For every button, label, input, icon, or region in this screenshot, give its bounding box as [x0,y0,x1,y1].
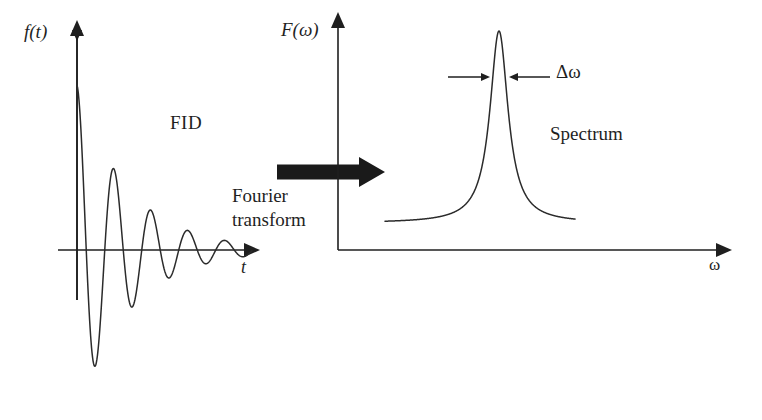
fid-panel [58,20,260,366]
spectrum-y-axis-label: F(ω) [281,20,319,39]
fid-x-axis-label: t [241,258,246,276]
spectrum-panel [331,12,732,257]
fid-waveform [77,85,252,366]
spectrum-y-axis-group [331,12,345,250]
fid-y-axis-arrowhead [70,20,84,36]
fourier-transform-label-line1: Fourier [232,186,288,205]
fid-caption: FID [170,113,202,132]
spectrum-caption: Spectrum [550,124,623,143]
fourier-transform-label-line2: transform [232,210,306,229]
fourier-transform-arrow [277,157,385,187]
linewidth-label: Δω [556,62,581,81]
spectrum-y-axis-arrowhead [331,12,345,28]
spectrum-x-axis-group [338,243,732,257]
spectrum-lorentzian-peak [385,31,575,221]
spectrum-x-axis-label: ω [709,256,720,273]
fid-y-axis-label: f(t) [24,22,47,41]
nmr-fid-spectrum-figure [0,0,762,420]
